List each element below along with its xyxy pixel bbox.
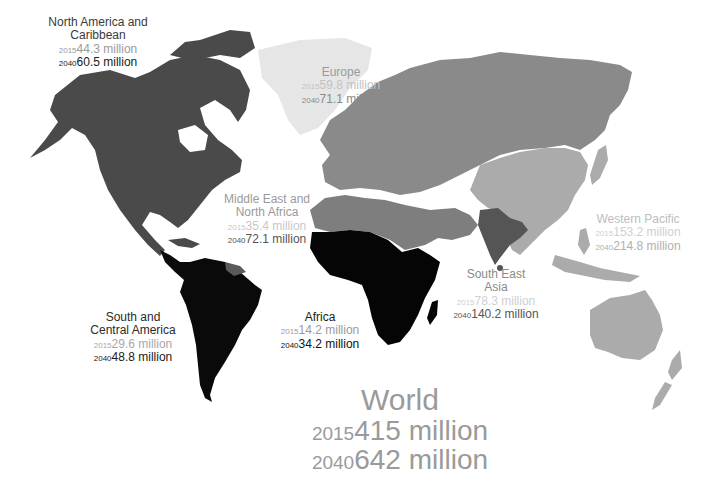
region-name: Africa (270, 311, 370, 324)
value-2040: 204034.2 million (270, 338, 370, 351)
region-name: Western Pacific (588, 213, 688, 226)
region-name-line2: Asia (446, 281, 546, 294)
region-madagascar (427, 300, 438, 325)
world-value-2015: 2015415 million (290, 416, 510, 445)
label-south-central-america: South and Central America 201529.6 milli… (78, 311, 188, 365)
region-arctic-islands (170, 30, 255, 60)
region-caribbean (168, 238, 200, 248)
region-indonesia (552, 255, 640, 282)
value-2015: 201578.3 million (446, 295, 546, 308)
value-2040: 204060.5 million (38, 56, 158, 69)
value-2040: 204071.1 million (296, 93, 386, 106)
region-new-zealand (652, 350, 682, 410)
region-australia (590, 290, 663, 360)
region-name-line2: Central America (78, 324, 188, 337)
region-name: North America and (38, 16, 158, 29)
value-2040: 204048.8 million (78, 351, 188, 364)
value-2015: 201535.4 million (212, 220, 322, 233)
value-2040: 204072.1 million (212, 233, 322, 246)
label-south-east-asia: South East Asia 201578.3 million 2040140… (446, 268, 546, 322)
world-title: World (290, 384, 510, 416)
value-2040: 2040214.8 million (588, 240, 688, 253)
region-name-line2: Caribbean (38, 29, 158, 42)
label-middle-east-north-africa: Middle East and North Africa 201535.4 mi… (212, 193, 322, 247)
value-2015: 201529.6 million (78, 338, 188, 351)
region-japan (590, 145, 608, 185)
value-2015: 201544.3 million (38, 43, 158, 56)
region-name: Europe (296, 66, 386, 79)
label-europe: Europe 201559.8 million 204071.1 million (296, 66, 386, 106)
region-name: South and (78, 311, 188, 324)
value-2040: 2040140.2 million (446, 308, 546, 321)
region-name: South East (446, 268, 546, 281)
world-value-2040: 2040642 million (290, 445, 510, 474)
label-north-america: North America and Caribbean 201544.3 mil… (38, 16, 158, 70)
value-2015: 201559.8 million (296, 79, 386, 92)
world-totals: World 2015415 million 2040642 million (290, 384, 510, 474)
value-2015: 2015153.2 million (588, 226, 688, 239)
value-2015: 201514.2 million (270, 324, 370, 337)
region-name: Middle East and (212, 193, 322, 206)
label-western-pacific: Western Pacific 2015153.2 million 204021… (588, 213, 688, 253)
label-africa: Africa 201514.2 million 204034.2 million (270, 311, 370, 351)
region-name-line2: North Africa (212, 206, 322, 219)
